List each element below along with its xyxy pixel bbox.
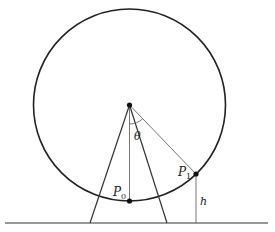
p0-subscript: 0 — [121, 192, 126, 201]
diagram-canvas: θ P 0 P 1 h — [0, 0, 275, 232]
h-label: h — [200, 195, 207, 208]
ferris-wheel-diagram: θ P 0 P 1 h — [0, 0, 275, 232]
support-leg-left — [90, 105, 130, 223]
center-point — [127, 102, 132, 107]
point-p1 — [193, 171, 198, 176]
p1-subscript: 1 — [186, 172, 191, 181]
point-p0 — [127, 198, 132, 203]
theta-arc — [130, 119, 143, 124]
theta-label: θ — [134, 130, 141, 143]
support-leg-right — [130, 105, 168, 223]
